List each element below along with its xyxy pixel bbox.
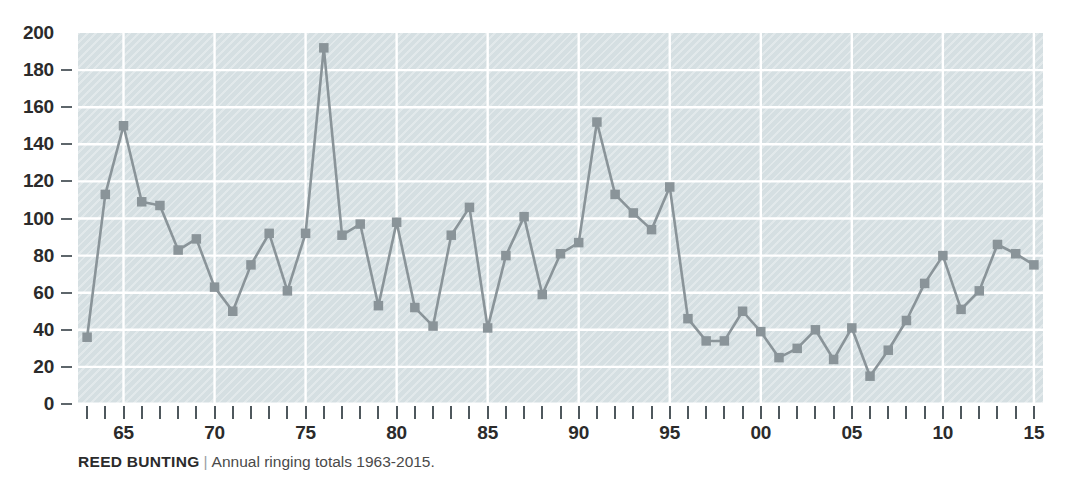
data-point-marker: [756, 327, 766, 337]
plot-area: [78, 33, 1043, 404]
data-point-marker: [720, 336, 730, 346]
y-axis-tick-mark: [61, 292, 72, 294]
x-axis-tick-mark: [814, 406, 816, 419]
x-axis-tick-label: 05: [841, 422, 862, 444]
y-axis-tick-label: 180: [8, 59, 54, 81]
x-axis-tick-mark: [123, 406, 125, 419]
reed-bunting-chart-figure: 020406080100120140160180200 657075808590…: [0, 0, 1079, 497]
data-point-marker: [101, 190, 111, 200]
data-point-marker: [865, 371, 875, 381]
x-axis-tick-mark: [905, 406, 907, 419]
data-point-marker: [82, 332, 92, 342]
data-point-marker: [847, 323, 857, 333]
data-point-marker: [392, 217, 402, 227]
x-axis-tick-mark: [1033, 406, 1035, 419]
data-point-marker: [920, 279, 930, 289]
y-axis-tick-label: 20: [8, 356, 54, 378]
x-axis-tick-mark: [232, 406, 234, 419]
data-point-marker: [538, 290, 548, 300]
x-axis-tick-label: 10: [932, 422, 953, 444]
y-axis-tick-label: 120: [8, 170, 54, 192]
y-axis-tick-label: 140: [8, 133, 54, 155]
y-axis-tick-mark: [61, 69, 72, 71]
x-axis-tick-mark: [651, 406, 653, 419]
x-axis-tick-mark: [669, 406, 671, 419]
x-axis-tick-mark: [268, 406, 270, 419]
data-point-marker: [519, 212, 529, 222]
data-point-marker: [410, 303, 420, 313]
y-axis-tick-mark: [61, 106, 72, 108]
x-axis-tick-mark: [760, 406, 762, 419]
x-axis-tick-mark: [505, 406, 507, 419]
x-axis-tick-mark: [614, 406, 616, 419]
y-axis-tick-mark: [61, 255, 72, 257]
x-axis-tick-mark: [687, 406, 689, 419]
y-axis-tick-label: 40: [8, 319, 54, 341]
data-point-marker: [1011, 249, 1021, 258]
data-point-marker: [337, 230, 347, 240]
x-axis-tick-mark: [487, 406, 489, 419]
data-point-marker: [374, 301, 384, 311]
data-point-marker: [355, 219, 365, 229]
data-point-marker: [556, 249, 566, 258]
data-point-marker: [447, 230, 457, 240]
x-axis-tick-mark: [578, 406, 580, 419]
caption-species: REED BUNTING: [78, 453, 200, 470]
data-point-marker: [647, 225, 657, 235]
data-point-marker: [192, 234, 202, 244]
x-axis-tick-label: 80: [386, 422, 407, 444]
data-point-marker: [774, 353, 784, 363]
data-point-marker: [137, 197, 147, 207]
data-point-marker: [738, 307, 748, 317]
y-axis-tick-label: 80: [8, 245, 54, 267]
data-point-marker: [665, 182, 675, 192]
x-axis-tick-mark: [286, 406, 288, 419]
x-axis-tick-mark: [86, 406, 88, 419]
x-axis-tick-mark: [851, 406, 853, 419]
x-axis-tick-mark: [450, 406, 452, 419]
x-axis-tick-mark: [323, 406, 325, 419]
x-axis-tick-label: 90: [568, 422, 589, 444]
x-axis-tick-mark: [141, 406, 143, 419]
y-axis-tick-mark: [61, 403, 72, 405]
data-point-marker: [993, 240, 1003, 250]
y-axis-tick-mark: [61, 180, 72, 182]
data-point-marker: [574, 238, 584, 248]
x-axis-tick-mark: [432, 406, 434, 419]
data-point-marker: [319, 43, 329, 53]
data-point-marker: [119, 121, 129, 131]
x-axis-tick-mark: [523, 406, 525, 419]
x-axis-tick-mark: [796, 406, 798, 419]
data-point-marker: [975, 286, 985, 296]
data-point-marker: [155, 201, 165, 211]
data-series-line: [78, 33, 1043, 404]
x-axis-tick-label: 85: [477, 422, 498, 444]
x-axis-tick-mark: [978, 406, 980, 419]
data-point-marker: [210, 282, 220, 292]
x-axis-tick-mark: [996, 406, 998, 419]
data-point-marker: [483, 323, 493, 333]
x-axis-tick-mark: [1015, 406, 1017, 419]
y-axis-tick-mark: [61, 218, 72, 220]
x-axis-tick-label: 75: [295, 422, 316, 444]
y-axis-tick-label: 60: [8, 282, 54, 304]
data-point-marker: [938, 251, 948, 261]
data-point-marker: [1029, 260, 1039, 270]
data-point-marker: [811, 325, 821, 335]
x-axis-tick-mark: [104, 406, 106, 419]
x-axis-tick-mark: [414, 406, 416, 419]
data-point-marker: [465, 203, 475, 213]
x-axis-tick-mark: [541, 406, 543, 419]
data-point-marker: [228, 307, 238, 317]
x-axis-tick-label: 00: [750, 422, 771, 444]
data-point-marker: [246, 260, 256, 270]
y-axis-tick-label: 100: [8, 208, 54, 230]
x-axis-tick-mark: [250, 406, 252, 419]
x-axis-tick-mark: [942, 406, 944, 419]
x-axis-tick-mark: [195, 406, 197, 419]
y-axis-tick-label: 0: [8, 393, 54, 415]
x-axis-tick-mark: [778, 406, 780, 419]
caption-separator: |: [200, 453, 212, 470]
x-axis-tick-mark: [632, 406, 634, 419]
x-axis-tick-mark: [960, 406, 962, 419]
